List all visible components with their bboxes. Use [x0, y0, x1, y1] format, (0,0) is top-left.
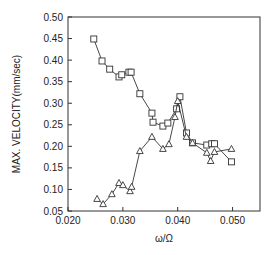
triangle-marker — [228, 145, 235, 151]
y-tick-label: 0.45 — [44, 33, 64, 44]
x-tick-label: 0.020 — [55, 215, 80, 226]
triangle-marker — [203, 149, 210, 155]
square-marker — [91, 36, 97, 42]
y-tick-label: 0.05 — [44, 206, 64, 217]
x-tick-label: 0.030 — [110, 215, 135, 226]
x-axis: 0.0200.0300.0400.050 — [55, 207, 245, 226]
x-tick-label: 0.040 — [165, 215, 190, 226]
square-marker — [107, 66, 113, 72]
y-tick-label: 0.10 — [44, 184, 64, 195]
y-tick-label: 0.30 — [44, 98, 64, 109]
triangle-marker — [109, 191, 116, 197]
square-marker — [149, 110, 155, 116]
data-series — [91, 36, 235, 207]
y-tick-label: 0.20 — [44, 141, 64, 152]
y-tick-label: 0.40 — [44, 55, 64, 66]
square-marker — [228, 159, 234, 165]
square-marker — [137, 91, 143, 97]
y-tick-label: 0.35 — [44, 76, 64, 87]
y-tick-label: 0.15 — [44, 162, 64, 173]
triangle-marker — [166, 141, 173, 147]
y-axis-title: MAX. VELOCITY(mm/sec) — [11, 55, 22, 173]
square-marker — [119, 72, 125, 78]
square-marker — [150, 119, 156, 125]
triangles-line — [97, 101, 231, 204]
triangle-marker — [94, 195, 101, 201]
triangle-marker — [128, 183, 135, 189]
square-marker — [165, 120, 171, 126]
x-axis-title: ω/Ω — [155, 233, 174, 244]
triangle-marker — [149, 133, 156, 139]
triangle-marker — [207, 157, 214, 163]
square-marker — [211, 141, 217, 147]
y-tick-label: 0.25 — [44, 119, 64, 130]
velocity-chart: 0.0200.0300.0400.050 0.050.100.150.200.2… — [0, 0, 276, 255]
y-tick-label: 0.50 — [44, 12, 64, 23]
square-marker — [99, 58, 105, 64]
square-marker — [128, 69, 134, 75]
x-tick-label: 0.050 — [220, 215, 245, 226]
